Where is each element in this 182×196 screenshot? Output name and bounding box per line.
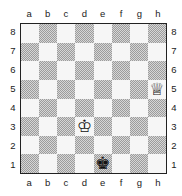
square-d8[interactable] bbox=[75, 24, 93, 43]
file-label-bottom-g: g bbox=[130, 178, 148, 188]
square-f8[interactable] bbox=[112, 24, 130, 43]
rank-label-right-4: 4 bbox=[169, 103, 179, 113]
square-c8[interactable] bbox=[57, 24, 75, 43]
rank-label-right-1: 1 bbox=[169, 160, 179, 170]
rank-label-left-6: 6 bbox=[8, 65, 18, 75]
square-b6[interactable] bbox=[39, 61, 57, 80]
file-label-bottom-a: a bbox=[20, 178, 38, 188]
square-d5[interactable] bbox=[75, 80, 93, 99]
square-b7[interactable] bbox=[39, 43, 57, 62]
square-h1[interactable] bbox=[148, 154, 166, 173]
square-d4[interactable] bbox=[75, 99, 93, 118]
square-h7[interactable] bbox=[148, 43, 166, 62]
square-g4[interactable] bbox=[130, 99, 148, 118]
file-label-top-e: e bbox=[94, 9, 112, 19]
white-king-icon[interactable]: ♔ bbox=[77, 118, 92, 135]
square-a3[interactable] bbox=[21, 117, 39, 136]
file-label-top-f: f bbox=[112, 9, 130, 19]
square-c6[interactable] bbox=[57, 61, 75, 80]
square-g7[interactable] bbox=[130, 43, 148, 62]
rank-label-right-7: 7 bbox=[169, 46, 179, 56]
rank-label-right-2: 2 bbox=[169, 141, 179, 151]
black-king-icon[interactable]: ♚ bbox=[95, 155, 110, 172]
square-g1[interactable] bbox=[130, 154, 148, 173]
rank-label-right-6: 6 bbox=[169, 65, 179, 75]
square-d3[interactable]: ♔ bbox=[75, 117, 93, 136]
rank-label-right-5: 5 bbox=[169, 84, 179, 94]
square-e1[interactable]: ♚ bbox=[94, 154, 112, 173]
square-a7[interactable] bbox=[21, 43, 39, 62]
square-a2[interactable] bbox=[21, 136, 39, 155]
square-a5[interactable] bbox=[21, 80, 39, 99]
rank-label-left-5: 5 bbox=[8, 84, 18, 94]
square-g5[interactable] bbox=[130, 80, 148, 99]
square-e5[interactable] bbox=[94, 80, 112, 99]
square-a1[interactable] bbox=[21, 154, 39, 173]
square-h3[interactable] bbox=[148, 117, 166, 136]
rank-label-left-4: 4 bbox=[8, 103, 18, 113]
square-d6[interactable] bbox=[75, 61, 93, 80]
square-e4[interactable] bbox=[94, 99, 112, 118]
square-g8[interactable] bbox=[130, 24, 148, 43]
rank-label-right-3: 3 bbox=[169, 122, 179, 132]
square-f4[interactable] bbox=[112, 99, 130, 118]
square-c4[interactable] bbox=[57, 99, 75, 118]
square-h5[interactable]: ♕ bbox=[148, 80, 166, 99]
square-b1[interactable] bbox=[39, 154, 57, 173]
square-h2[interactable] bbox=[148, 136, 166, 155]
square-c5[interactable] bbox=[57, 80, 75, 99]
square-a4[interactable] bbox=[21, 99, 39, 118]
file-label-top-b: b bbox=[38, 9, 56, 19]
square-d7[interactable] bbox=[75, 43, 93, 62]
square-h6[interactable] bbox=[148, 61, 166, 80]
square-f3[interactable] bbox=[112, 117, 130, 136]
square-b8[interactable] bbox=[39, 24, 57, 43]
square-c1[interactable] bbox=[57, 154, 75, 173]
file-label-bottom-f: f bbox=[112, 178, 130, 188]
square-d2[interactable] bbox=[75, 136, 93, 155]
file-label-top-a: a bbox=[20, 9, 38, 19]
square-d1[interactable] bbox=[75, 154, 93, 173]
square-h8[interactable] bbox=[148, 24, 166, 43]
file-label-bottom-h: h bbox=[149, 178, 167, 188]
rank-label-left-8: 8 bbox=[8, 27, 18, 37]
white-queen-icon[interactable]: ♕ bbox=[149, 81, 164, 98]
file-label-bottom-b: b bbox=[38, 178, 56, 188]
file-label-bottom-e: e bbox=[94, 178, 112, 188]
file-label-top-d: d bbox=[75, 9, 93, 19]
rank-label-left-2: 2 bbox=[8, 141, 18, 151]
square-f2[interactable] bbox=[112, 136, 130, 155]
file-label-top-g: g bbox=[130, 9, 148, 19]
file-label-bottom-d: d bbox=[75, 178, 93, 188]
rank-label-left-3: 3 bbox=[8, 122, 18, 132]
rank-label-left-7: 7 bbox=[8, 46, 18, 56]
square-g6[interactable] bbox=[130, 61, 148, 80]
file-label-top-h: h bbox=[149, 9, 167, 19]
square-b2[interactable] bbox=[39, 136, 57, 155]
square-b3[interactable] bbox=[39, 117, 57, 136]
square-a8[interactable] bbox=[21, 24, 39, 43]
square-f5[interactable] bbox=[112, 80, 130, 99]
square-e8[interactable] bbox=[94, 24, 112, 43]
square-a6[interactable] bbox=[21, 61, 39, 80]
square-e7[interactable] bbox=[94, 43, 112, 62]
rank-label-right-8: 8 bbox=[169, 27, 179, 37]
square-f6[interactable] bbox=[112, 61, 130, 80]
square-f1[interactable] bbox=[112, 154, 130, 173]
square-b4[interactable] bbox=[39, 99, 57, 118]
file-label-top-c: c bbox=[57, 9, 75, 19]
square-c3[interactable] bbox=[57, 117, 75, 136]
rank-label-left-1: 1 bbox=[8, 160, 18, 170]
square-e2[interactable] bbox=[94, 136, 112, 155]
square-f7[interactable] bbox=[112, 43, 130, 62]
square-c7[interactable] bbox=[57, 43, 75, 62]
file-label-bottom-c: c bbox=[57, 178, 75, 188]
square-c2[interactable] bbox=[57, 136, 75, 155]
square-e3[interactable] bbox=[94, 117, 112, 136]
square-g2[interactable] bbox=[130, 136, 148, 155]
chess-board: ♕♔♚ bbox=[20, 23, 167, 174]
square-b5[interactable] bbox=[39, 80, 57, 99]
square-e6[interactable] bbox=[94, 61, 112, 80]
square-h4[interactable] bbox=[148, 99, 166, 118]
square-g3[interactable] bbox=[130, 117, 148, 136]
